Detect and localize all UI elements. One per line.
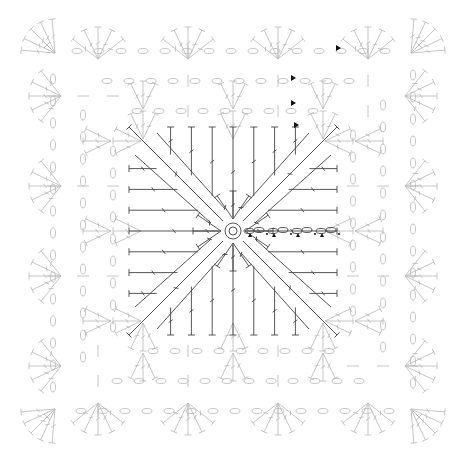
dc-stitch — [218, 353, 233, 380]
dc-top-bar — [214, 264, 220, 268]
dc-top-bar — [84, 126, 87, 132]
dc-top-bar — [31, 259, 34, 265]
chain-stitch — [154, 109, 164, 114]
dc-yarn-over — [174, 288, 179, 289]
round-start-marker — [291, 100, 296, 106]
dc-yarn-over — [46, 267, 47, 272]
dc-top-bar — [445, 47, 446, 54]
dc-stitch — [161, 403, 188, 426]
dc-top-bar — [71, 36, 75, 41]
dc-stitch — [323, 82, 338, 109]
dc-top-bar — [31, 79, 34, 85]
dc-top-bar — [38, 339, 43, 343]
dc-yarn-over — [147, 96, 152, 97]
dc-stitch — [355, 126, 382, 141]
dc-stitch — [233, 82, 248, 109]
dc-stitch — [128, 82, 143, 109]
dc-stitch — [28, 409, 55, 436]
dc-top-bar — [199, 430, 205, 433]
chain-stitch — [381, 144, 386, 154]
dc-top-bar — [379, 240, 382, 246]
dc-yarn-over — [419, 281, 420, 286]
chain-stitch — [411, 70, 416, 80]
dc-top-bar — [445, 408, 446, 415]
dc-yarn-over — [426, 414, 427, 419]
dc-yarn-over — [128, 222, 129, 227]
dc-stitch — [84, 216, 111, 231]
dc-stitch — [31, 79, 61, 96]
dc-top-bar — [261, 430, 267, 433]
dc-top-bar — [349, 330, 352, 336]
chain-stitch — [354, 379, 364, 384]
dc-top-bar — [432, 197, 435, 203]
dc-top-bar — [31, 169, 34, 175]
chain-stitch — [254, 228, 264, 233]
chain-stitch — [411, 246, 416, 256]
chain-stitch — [146, 79, 156, 84]
chain-stitch — [120, 409, 130, 414]
dc-yarn-over — [314, 365, 319, 366]
chain-stitch — [411, 312, 416, 322]
dc-stitch — [143, 112, 158, 139]
chain-stitch — [81, 308, 86, 318]
dc-top-bar — [261, 29, 267, 32]
dc-yarn-over — [288, 174, 293, 175]
chain-stitch — [411, 224, 416, 234]
dc-stitch — [188, 36, 215, 59]
dc-top-bar — [21, 408, 22, 415]
dc-top-bar — [391, 420, 395, 425]
dc-stitch — [251, 403, 278, 426]
chain-stitch — [72, 49, 82, 54]
chain-stitch — [344, 79, 354, 84]
chain-stitch — [81, 352, 86, 362]
dc-top-bar — [211, 420, 215, 425]
dc-yarn-over — [224, 205, 226, 210]
chain-stitch — [81, 176, 86, 186]
dc-stitch — [209, 266, 216, 335]
dc-stitch — [278, 403, 295, 433]
chain-stitch — [351, 152, 356, 162]
dc-stitch — [71, 403, 98, 426]
dc-stitch — [268, 248, 337, 255]
chain-stitch — [51, 228, 56, 238]
dc-yarn-over — [45, 424, 50, 425]
dc-yarn-over — [423, 419, 424, 424]
dc-stitch — [405, 366, 435, 383]
dc-stitch — [411, 26, 438, 53]
chain-stitch — [176, 109, 186, 114]
chain-stitch — [212, 79, 222, 84]
dc-top-bar — [121, 420, 125, 425]
corner-x-mark — [416, 42, 422, 48]
chain-stitch — [258, 349, 268, 354]
dc-stitch — [268, 207, 337, 214]
chain-stitch — [111, 234, 116, 244]
dc-stitch — [188, 29, 205, 59]
dc-top-bar — [23, 35, 26, 41]
chain-stitch — [200, 379, 210, 384]
dc-top-bar — [242, 82, 248, 85]
dc-stitch — [355, 141, 382, 156]
dc-top-bar — [31, 197, 34, 203]
dc-top-bar — [31, 107, 34, 113]
dc-yarn-over — [254, 222, 259, 224]
dc-yarn-over — [179, 417, 184, 418]
chain-stitch — [381, 276, 386, 286]
dc-top-bar — [128, 377, 134, 380]
dc-stitch — [84, 306, 111, 321]
dc-top-bar — [161, 36, 165, 41]
chain-stitch — [51, 206, 56, 216]
dc-top-bar — [114, 330, 117, 336]
dc-stitch — [98, 403, 115, 433]
slip-stitch-dot — [314, 233, 316, 235]
chain-stitch — [351, 174, 356, 184]
dc-top-bar — [214, 194, 220, 198]
dc-stitch — [127, 241, 223, 337]
dc-yarn-over — [367, 145, 368, 150]
dc-stitch — [278, 403, 305, 426]
chain-stitch — [292, 49, 302, 54]
dc-top-bar — [38, 159, 43, 163]
dc-top-bar — [31, 377, 34, 383]
dc-stitch — [250, 266, 257, 335]
dc-stitch — [308, 82, 323, 109]
chain-stitch — [111, 300, 116, 310]
